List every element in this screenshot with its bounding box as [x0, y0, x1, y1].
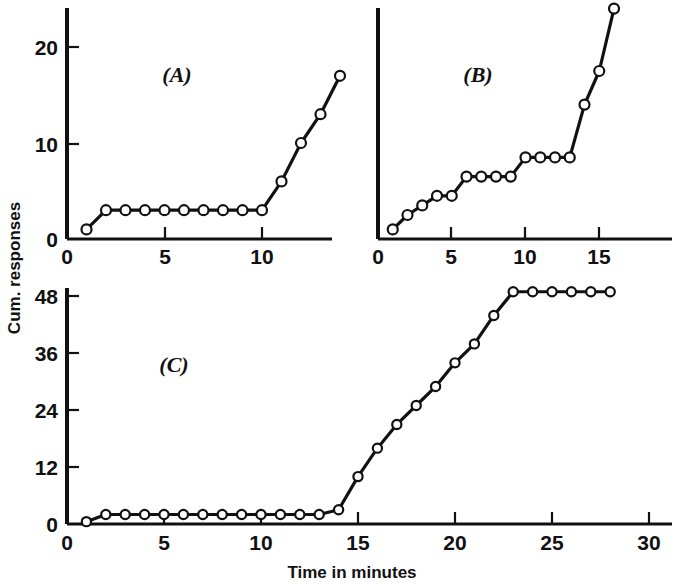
panel-c-label: (C): [159, 352, 188, 377]
panel-c-xtick-label-5: 5: [158, 531, 170, 554]
data-point: [550, 152, 560, 162]
data-point: [491, 172, 501, 182]
data-point: [476, 172, 486, 182]
data-point: [218, 205, 228, 215]
panel-a-ytick-label-10: 10: [35, 133, 58, 156]
data-point: [586, 287, 595, 296]
data-point: [121, 510, 130, 519]
panel-c-ytick-label-12: 12: [35, 456, 58, 479]
panel-b: 0 5 10 15 (B): [372, 4, 672, 268]
panel-c: 48 36 24 12 0 0 5 10 15 20 25 30 (C): [35, 285, 672, 554]
data-point: [392, 420, 401, 429]
data-point: [528, 287, 537, 296]
x-axis-title: Time in minutes: [287, 563, 416, 582]
data-point: [277, 176, 287, 186]
data-point: [594, 66, 604, 76]
cumulative-response-figure: 20 10 0 0 5 10 (A) 0 5 10 15 (B): [0, 0, 676, 584]
data-point: [296, 138, 306, 148]
panel-a-label: (A): [162, 62, 191, 87]
data-point: [179, 205, 189, 215]
panel-b-label: (B): [463, 62, 492, 87]
data-point: [82, 224, 92, 234]
data-point: [218, 510, 227, 519]
data-point: [82, 517, 91, 526]
data-point: [238, 205, 248, 215]
panel-c-data-line: [86, 292, 610, 522]
data-point: [121, 205, 131, 215]
data-point: [567, 287, 576, 296]
data-point: [101, 205, 111, 215]
data-point: [417, 200, 427, 210]
panel-c-xtick-label-25: 25: [540, 531, 564, 554]
data-point: [140, 510, 149, 519]
panel-c-ytick-label-24: 24: [35, 399, 59, 422]
data-point: [353, 472, 362, 481]
data-point: [159, 510, 168, 519]
data-point: [462, 172, 472, 182]
panel-b-xtick-label-15: 15: [587, 245, 611, 268]
panel-b-data-line: [393, 9, 614, 230]
data-point: [609, 4, 619, 14]
panel-a-ytick-label-0: 0: [46, 228, 58, 251]
data-point: [506, 172, 516, 182]
data-point: [199, 205, 209, 215]
data-point: [432, 191, 442, 201]
panel-a-xtick-label-5: 5: [159, 245, 171, 268]
panel-b-xtick-label-0: 0: [372, 245, 384, 268]
panel-a-xtick-label-10: 10: [250, 245, 273, 268]
panel-c-xtick-label-30: 30: [637, 531, 660, 554]
panel-a: 20 10 0 0 5 10 (A): [35, 8, 345, 268]
data-point: [580, 100, 590, 110]
data-point: [489, 311, 498, 320]
data-point: [276, 510, 285, 519]
data-point: [521, 152, 531, 162]
panel-c-ytick-label-48: 48: [35, 285, 59, 308]
data-point: [388, 224, 398, 234]
data-point: [431, 382, 440, 391]
data-point: [447, 191, 457, 201]
data-point: [450, 358, 459, 367]
data-point: [509, 287, 518, 296]
data-point: [316, 109, 326, 119]
y-axis-title: Cum. responses: [5, 202, 24, 334]
panel-c-xtick-label-20: 20: [443, 531, 466, 554]
data-point: [335, 71, 345, 81]
data-point: [257, 205, 267, 215]
panel-a-xtick-label-0: 0: [61, 245, 73, 268]
data-point: [334, 505, 343, 514]
panel-b-xtick-label-10: 10: [513, 245, 536, 268]
panel-b-data-markers: [388, 4, 619, 235]
panel-c-ytick-label-0: 0: [46, 513, 58, 536]
panel-c-xtick-label-0: 0: [61, 531, 73, 554]
data-point: [256, 510, 265, 519]
data-point: [606, 287, 615, 296]
data-point: [565, 152, 575, 162]
data-point: [373, 444, 382, 453]
data-point: [160, 205, 170, 215]
data-point: [237, 510, 246, 519]
figure-canvas: 20 10 0 0 5 10 (A) 0 5 10 15 (B): [0, 0, 676, 584]
data-point: [315, 510, 324, 519]
data-point: [140, 205, 150, 215]
data-point: [547, 287, 556, 296]
data-point: [295, 510, 304, 519]
panel-b-xtick-label-5: 5: [445, 245, 457, 268]
panel-c-ytick-label-36: 36: [35, 342, 58, 365]
panel-c-xtick-label-15: 15: [346, 531, 370, 554]
data-point: [535, 152, 545, 162]
data-point: [470, 339, 479, 348]
data-point: [403, 210, 413, 220]
data-point: [412, 401, 421, 410]
data-point: [179, 510, 188, 519]
panel-a-ytick-label-20: 20: [35, 36, 58, 59]
panel-c-xtick-label-10: 10: [249, 531, 272, 554]
data-point: [101, 510, 110, 519]
data-point: [198, 510, 207, 519]
